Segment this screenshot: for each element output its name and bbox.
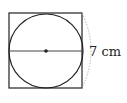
center-point <box>44 49 48 53</box>
dimension-label: 7 cm <box>89 44 121 59</box>
inscribed-circle-diagram: 7 cm <box>0 0 127 103</box>
